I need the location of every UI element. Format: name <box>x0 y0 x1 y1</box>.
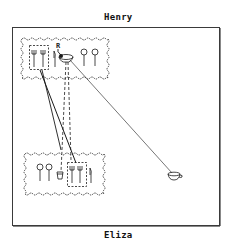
diagram-canvas: R <box>0 0 232 247</box>
fork-icon <box>32 50 36 67</box>
marker-label-r: R <box>56 42 61 50</box>
fork-icon <box>41 50 45 67</box>
glass-icon <box>81 49 87 66</box>
connection-cup-dashed <box>61 62 66 172</box>
connection-forks-left <box>42 70 61 150</box>
connection-cup-to-teacup <box>70 60 172 173</box>
eliza-zone-wavy-border <box>24 153 105 195</box>
eliza-zone <box>24 153 105 195</box>
knife-icon <box>54 51 55 67</box>
outer-frame <box>13 28 220 226</box>
knife-icon <box>90 168 91 183</box>
glass-icon <box>46 164 52 181</box>
fork-icon <box>78 166 82 183</box>
cup-icon <box>57 172 63 179</box>
glass-icon <box>37 164 43 181</box>
teacup-icon <box>168 172 182 180</box>
henry-zone: R <box>21 38 109 79</box>
henry-forks-group-box <box>30 46 49 70</box>
glass-icon <box>92 49 98 66</box>
fork-icon <box>70 166 74 183</box>
